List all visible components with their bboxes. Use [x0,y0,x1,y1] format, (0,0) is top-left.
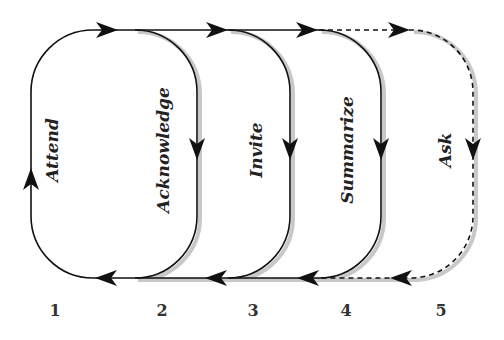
loop-shadows [138,32,476,280]
step-label: Ask [435,133,455,170]
step-number: 4 [340,301,351,320]
step-numbers: 12345 [49,301,446,320]
step-label: Acknowledge [153,87,173,215]
step-number: 5 [435,301,446,320]
step-number: 1 [49,301,60,320]
step-label: Attend [42,118,62,184]
step-labels: AttendAcknowledgeInviteSummarizeAsk [42,87,455,215]
step-label: Summarize [337,96,357,204]
step-number: 3 [247,301,258,320]
step-number: 2 [156,301,167,320]
process-diagram: AttendAcknowledgeInviteSummarizeAsk 1234… [0,0,504,340]
step-label: Invite [246,122,266,179]
